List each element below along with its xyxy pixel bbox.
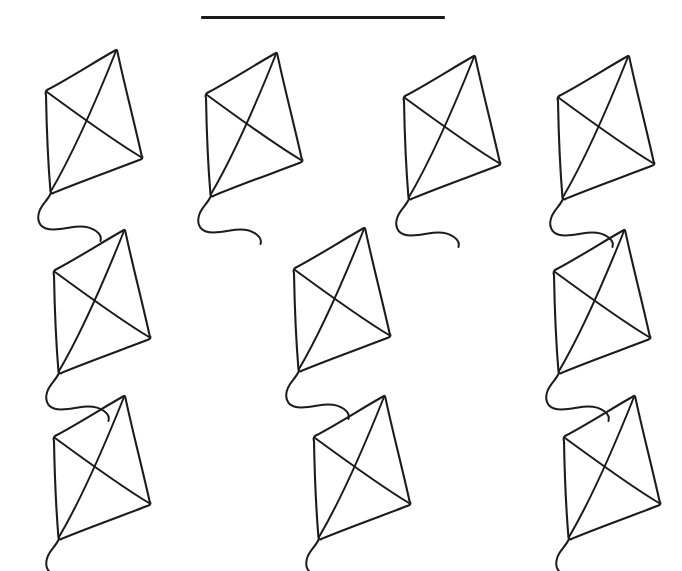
kite-icon bbox=[38, 388, 168, 563]
kite-icon bbox=[30, 42, 160, 217]
worksheet-canvas: 10 bbox=[0, 0, 682, 571]
kite-6-figure bbox=[278, 220, 408, 395]
object-count-value: 10 bbox=[0, 0, 1, 1]
kite-icon bbox=[298, 388, 428, 563]
kite-3-figure bbox=[388, 48, 518, 223]
kite-icon bbox=[538, 222, 668, 397]
kite-2-figure bbox=[190, 45, 320, 220]
kite-icon bbox=[548, 388, 678, 563]
kite-icon bbox=[38, 222, 168, 397]
kite-icon bbox=[542, 48, 672, 223]
kite-icon bbox=[278, 220, 408, 395]
kite-9-figure bbox=[298, 388, 428, 563]
kite-5-figure bbox=[38, 222, 168, 397]
kite-icon bbox=[388, 48, 518, 223]
kite-1-figure bbox=[30, 42, 160, 217]
kite-icon bbox=[190, 45, 320, 220]
kite-8-figure bbox=[38, 388, 168, 563]
kite-7-figure bbox=[538, 222, 668, 397]
kite-10-figure bbox=[548, 388, 678, 563]
answer-blank-line[interactable] bbox=[201, 16, 445, 19]
kite-4-figure bbox=[542, 48, 672, 223]
